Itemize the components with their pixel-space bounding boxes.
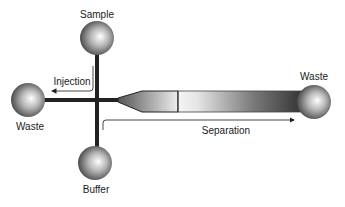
- waste-right-label: Waste: [300, 72, 328, 82]
- horizontal-channel: [40, 98, 118, 102]
- waste-left-label: Waste: [16, 122, 44, 132]
- channel-taper: [118, 91, 178, 112]
- separation-arrow: [103, 120, 294, 130]
- buffer-label: Buffer: [83, 185, 110, 195]
- sample-reservoir-icon: [80, 21, 114, 55]
- buffer-reservoir-icon: [78, 146, 112, 180]
- sample-label: Sample: [80, 10, 114, 20]
- injection-label: Injection: [53, 77, 90, 87]
- waste-right-reservoir-icon: [297, 85, 331, 119]
- microchip-diagram: [0, 0, 345, 207]
- separation-label: Separation: [202, 126, 250, 136]
- separation-channel: [178, 91, 303, 112]
- waste-left-reservoir-icon: [11, 83, 45, 117]
